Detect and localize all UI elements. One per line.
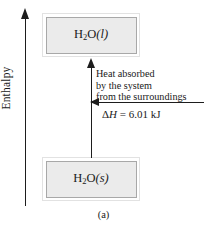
process-arrow-line xyxy=(91,66,92,158)
enthalpy-diagram-figure: Enthalpy H2O(l) H2O(s) Heat absorbed by … xyxy=(0,0,207,228)
species-solid-element-h: H xyxy=(73,171,82,185)
species-label-solid: H2O(s) xyxy=(73,172,109,185)
axis-line xyxy=(25,16,26,206)
heat-leader-arrow-line xyxy=(97,102,204,103)
axis-label-enthalpy: Enthalpy xyxy=(0,53,12,123)
species-solid-element-o: O xyxy=(87,171,96,185)
heat-annotation-line-2: by the system xyxy=(96,80,207,92)
species-label-liquid: H2O(l) xyxy=(74,28,108,41)
state-box-solid-inner-frame: H2O(s) xyxy=(46,161,137,198)
delta-h-value: ΔH = 6.01 kJ xyxy=(102,108,161,120)
delta-variable: H xyxy=(109,108,117,120)
species-liquid-element-h: H xyxy=(74,27,83,41)
heat-annotation-line-1: Heat absorbed xyxy=(96,68,207,80)
state-box-solid: H2O(s) xyxy=(42,157,140,201)
figure-caption: (a) xyxy=(0,209,207,220)
delta-magnitude: = 6.01 kJ xyxy=(117,108,160,120)
species-liquid-phase: (l) xyxy=(96,27,108,41)
enthalpy-axis xyxy=(20,8,31,206)
species-solid-phase: (s) xyxy=(96,171,109,185)
heat-leader-arrow xyxy=(90,98,204,107)
state-box-liquid: H2O(l) xyxy=(42,13,140,57)
species-liquid-element-o: O xyxy=(87,27,96,41)
state-box-liquid-inner-frame: H2O(l) xyxy=(46,17,137,54)
